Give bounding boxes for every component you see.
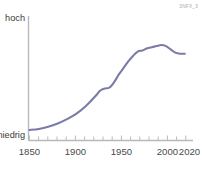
y-axis-low-label: niedrig: [0, 130, 25, 140]
chart-figure: 3NFX_3 hoch niedrig 1850 1900: [0, 0, 202, 172]
x-tick-label-1950: 1950: [111, 146, 132, 157]
x-tick-label-2020: 2020: [179, 146, 200, 157]
x-tick-label-1900: 1900: [65, 146, 86, 157]
line-chart-svg: 3NFX_3 hoch niedrig 1850 1900: [0, 0, 202, 172]
watermark-label: 3NFX_3: [179, 4, 198, 9]
x-tick-label-2000: 2000: [157, 146, 178, 157]
y-axis-high-label: hoch: [5, 13, 25, 23]
x-tick-label-1850: 1850: [19, 146, 40, 157]
